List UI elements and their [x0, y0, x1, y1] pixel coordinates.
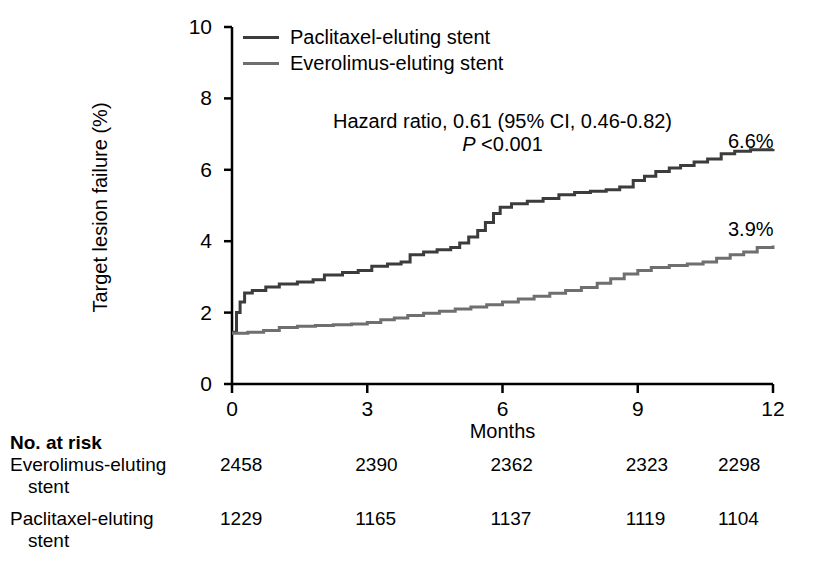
risk-table-cell: 1137 [491, 508, 561, 530]
y-tick-label: 2 [178, 302, 212, 323]
risk-table-cell: 1229 [220, 508, 290, 530]
risk-table-cell: 2458 [220, 454, 290, 476]
y-tick-label: 0 [178, 373, 212, 394]
risk-row-label: Paclitaxel-elutingstent [10, 508, 154, 552]
risk-table-cell: 1119 [626, 508, 696, 530]
risk-row-label-line1: Paclitaxel-eluting [10, 508, 154, 529]
y-axis-title: Target lesion failure (%) [89, 48, 112, 368]
risk-table-cell: 2323 [626, 454, 696, 476]
risk-row-label: Everolimus-elutingstent [10, 454, 166, 498]
x-tick-label: 6 [483, 398, 523, 419]
risk-row-label-line1: Everolimus-eluting [10, 454, 166, 475]
x-tick-label: 12 [753, 398, 793, 419]
p-value-annotation: P <0.001 [232, 133, 773, 156]
legend-line-swatch-paclitaxel [243, 36, 279, 39]
x-axis-ticks [232, 384, 773, 393]
x-tick-label: 0 [212, 398, 252, 419]
p-value-symbol: P [462, 133, 475, 155]
x-axis-title: Months [232, 420, 773, 443]
survival-curve-everolimus [232, 246, 773, 334]
hazard-ratio-annotation: Hazard ratio, 0.61 (95% CI, 0.46-0.82) [232, 110, 773, 133]
risk-table-cell: 1104 [718, 508, 788, 530]
risk-table-cell: 2298 [718, 454, 788, 476]
kaplan-meier-figure: 0246810 036912 Target lesion failure (%)… [0, 0, 823, 573]
risk-row-label-line2: stent [10, 530, 154, 552]
y-tick-label: 10 [178, 16, 212, 37]
risk-row-label-line2: stent [10, 476, 166, 498]
y-tick-label: 6 [178, 159, 212, 180]
p-value-number: <0.001 [476, 133, 543, 155]
legend-item-everolimus: Everolimus-eluting stent [243, 50, 503, 76]
y-tick-label: 4 [178, 230, 212, 251]
x-tick-label: 3 [347, 398, 387, 419]
endpoint-label-paclitaxel: 6.6% [728, 130, 774, 153]
x-tick-label: 9 [618, 398, 658, 419]
legend-line-swatch-everolimus [243, 62, 279, 65]
endpoint-label-everolimus: 3.9% [728, 218, 774, 241]
legend-label-everolimus: Everolimus-eluting stent [290, 53, 503, 73]
risk-table-title: No. at risk [10, 432, 102, 454]
legend-item-paclitaxel: Paclitaxel-eluting stent [243, 24, 503, 50]
risk-table-cell: 2362 [491, 454, 561, 476]
legend-label-paclitaxel: Paclitaxel-eluting stent [290, 27, 490, 47]
legend: Paclitaxel-eluting stent Everolimus-elut… [243, 24, 503, 76]
y-tick-label: 8 [178, 87, 212, 108]
risk-table-cell: 1165 [355, 508, 425, 530]
risk-table-cell: 2390 [355, 454, 425, 476]
